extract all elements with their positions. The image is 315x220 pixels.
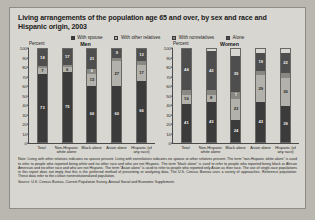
bar-value-label: 73 [40, 106, 45, 110]
bar-value-label: 24 [234, 129, 239, 133]
stacked-bar: 60279 [111, 48, 122, 143]
bar-segment: 13 [87, 74, 96, 86]
chart-source: Source: U.S. Census Bureau, Current Popu… [18, 180, 297, 184]
x-axis: TotalNon-Hispanic white aloneBlack alone… [172, 144, 299, 154]
legend-label: With other relatives [121, 35, 160, 40]
bar-value-label: 21 [90, 57, 95, 61]
bar-segment: 19 [256, 53, 265, 71]
bar-value-label: 60 [90, 112, 95, 116]
stacked-bar: 432919 [255, 48, 266, 143]
y-axis-title: Percent [173, 41, 189, 46]
stacked-bar: 6013621 [86, 48, 97, 143]
bar-segment: 8 [207, 95, 216, 102]
stacked-bar: 661713 [136, 48, 147, 143]
bar-value-label: 13 [90, 78, 95, 82]
bar-group: 411044438422423739432919393022 [173, 48, 299, 143]
bar-segment: 44 [182, 49, 191, 90]
bar-value-label: 39 [234, 72, 239, 76]
panel-men: MenPercent100908070605040302010073718756… [16, 41, 155, 154]
legend-swatch-icon [172, 36, 176, 40]
bar-segment: 22 [281, 53, 290, 73]
x-axis-tick-label: Black alone [80, 146, 104, 155]
legend-label: Alone [233, 35, 245, 40]
bar-group: 7371875617601362160279661713 [29, 48, 155, 143]
legend-label: With spouse [77, 35, 102, 40]
legend-item: Alone [226, 35, 244, 40]
bar-value-label: 17 [139, 71, 144, 75]
legend-swatch-icon [114, 36, 118, 40]
x-axis-tick-label: Total [174, 146, 198, 155]
bar-segment: 13 [137, 49, 146, 61]
bar-value-label: 66 [139, 109, 144, 113]
stacked-bar: 2423739 [230, 48, 241, 143]
legend-swatch-icon [71, 36, 75, 40]
x-axis-tick-label: Hispanic (of any race) [130, 146, 154, 155]
page-title: Living arrangements of the population ag… [18, 14, 297, 31]
panel-women: WomenPercent1009080706050403020100411044… [160, 41, 299, 154]
y-axis-tick-label: 100 [20, 46, 27, 51]
bar-value-label: 18 [40, 56, 45, 60]
stacked-bar: 411044 [181, 48, 192, 143]
bar-value-label: 23 [234, 107, 239, 111]
stacked-bar: 393022 [280, 48, 291, 143]
chart-legend: With spouseWith other relativesWith nonr… [16, 35, 299, 40]
bar-value-label: 41 [184, 121, 189, 125]
stacked-bar: 73718 [37, 48, 48, 143]
bar-value-label: 75 [65, 105, 70, 109]
bar-segment: 66 [137, 81, 146, 142]
bar-segment: 42 [207, 51, 216, 90]
bar-value-label: 7 [41, 69, 43, 73]
bar-value-label: 43 [209, 120, 214, 124]
bar-value-label: 44 [184, 68, 189, 72]
bar-value-label: 13 [139, 53, 144, 57]
y-axis: 1009080706050403020100 [17, 48, 29, 143]
chart-panels: MenPercent100908070605040302010073718756… [16, 41, 299, 154]
bar-segment: 60 [112, 86, 121, 142]
bar-value-label: 19 [259, 60, 264, 64]
x-axis-tick-label: Non-Hispanic white alone [199, 146, 223, 155]
bar-segment: 39 [231, 56, 240, 92]
bar-segment: 17 [137, 65, 146, 81]
bar-segment: 18 [38, 49, 47, 66]
x-axis-tick-label: Non-Hispanic white alone [55, 146, 79, 155]
plot-area: 1009080706050403020100411044438422423739… [172, 48, 299, 144]
y-axis-tick-label: 100 [164, 46, 171, 51]
bar-segment: 23 [231, 99, 240, 120]
legend-label: With nonrelatives [179, 35, 214, 40]
bar-segment: 30 [281, 78, 290, 106]
chart-figure: Living arrangements of the population ag… [9, 7, 306, 209]
bar-segment: 41 [182, 104, 191, 142]
bar-value-label: 8 [210, 96, 212, 100]
stacked-bar: 43842 [206, 48, 217, 143]
x-axis: TotalNon-Hispanic white aloneBlack alone… [28, 144, 155, 154]
x-axis-tick-label: Hispanic (of any race) [274, 146, 298, 155]
plot-area: 1009080706050403020100737187561760136216… [28, 48, 155, 144]
bar-segment: 60 [87, 86, 96, 142]
bar-value-label: 42 [209, 69, 214, 73]
bar-segment: 43 [256, 102, 265, 142]
x-axis-tick-label: Total [30, 146, 54, 155]
legend-swatch-icon [226, 36, 230, 40]
bar-value-label: 17 [65, 55, 70, 59]
y-axis-title: Percent [29, 41, 45, 46]
bar-segment: 73 [38, 74, 47, 142]
bar-value-label: 6 [66, 68, 68, 72]
bar-value-label: 7 [235, 93, 237, 97]
y-axis: 1009080706050403020100 [161, 48, 173, 143]
bar-segment: 43 [207, 102, 216, 142]
bar-value-label: 43 [259, 120, 264, 124]
bar-value-label: 22 [283, 61, 288, 65]
bar-value-label: 27 [115, 72, 120, 76]
bar-value-label: 10 [184, 97, 189, 101]
bar-value-label: 60 [115, 112, 120, 116]
bar-segment: 27 [112, 61, 121, 86]
bar-segment: 10 [182, 95, 191, 104]
legend-item: With spouse [71, 35, 103, 40]
bar-segment: 17 [63, 49, 72, 65]
chart-note: Note: Living with other relatives indica… [18, 157, 297, 178]
bar-segment: 29 [256, 75, 265, 102]
x-axis-tick-label: Asian alone [105, 146, 129, 155]
x-axis-tick-label: Asian alone [249, 146, 273, 155]
bar-value-label: 6 [91, 69, 93, 73]
stacked-bar: 75617 [62, 48, 73, 143]
